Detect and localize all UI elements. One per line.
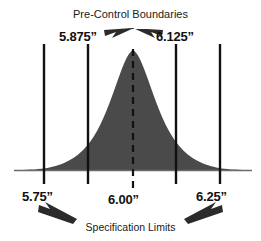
pre-control-boundary-upper-label: 6.125” [156, 30, 194, 43]
spec-limit-lower-label: 5.75” [22, 190, 53, 203]
specification-limits-caption: Specification Limits [0, 222, 261, 233]
pre-control-boundaries-title: Pre-Control Boundaries [0, 9, 261, 20]
spec-limit-upper-label: 6.25” [196, 190, 227, 203]
pre-control-boundary-lower-label: 5.875” [59, 30, 97, 43]
arrow-up-right-icon [184, 202, 223, 224]
pre-control-callout-arrows [104, 28, 163, 38]
pre-control-bell-curve-figure: Pre-Control Boundaries 5.875” 6.125” 5.7… [0, 0, 261, 241]
arrow-left-down-icon [104, 28, 134, 38]
nominal-center-label: 6.00” [108, 193, 139, 206]
arrow-up-left-icon [38, 202, 77, 224]
